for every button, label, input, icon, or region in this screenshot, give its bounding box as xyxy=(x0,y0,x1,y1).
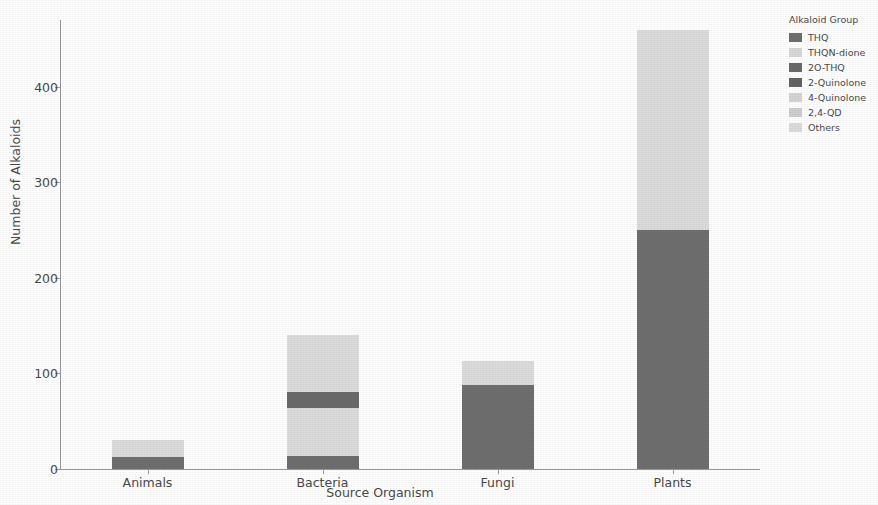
bar-segment[interactable] xyxy=(112,440,184,456)
legend-item-label: 2-Quinolone xyxy=(808,78,866,88)
bar-segment[interactable] xyxy=(112,457,184,469)
x-tick-mark xyxy=(673,469,674,474)
bar-stack[interactable] xyxy=(287,335,359,469)
legend-item-label: THQ xyxy=(808,33,828,43)
legend-swatch xyxy=(789,63,802,72)
bar-segment[interactable] xyxy=(462,361,534,385)
legend-item[interactable]: 2-Quinolone xyxy=(789,75,878,90)
legend-item[interactable]: THQN-dione xyxy=(789,45,878,60)
bar-segment[interactable] xyxy=(637,230,709,469)
legend-item[interactable]: 4-Quinolone xyxy=(789,90,878,105)
legend-item[interactable]: 2,4-QD xyxy=(789,105,878,120)
stacked-bar-chart: 0100200300400 AnimalsBacteriaFungiPlants… xyxy=(0,0,878,505)
bar-segment[interactable] xyxy=(637,30,709,231)
x-tick-mark xyxy=(148,469,149,474)
bar-stack[interactable] xyxy=(462,361,534,469)
legend: Alkaloid Group THQTHQN-dione2O-THQ2-Quin… xyxy=(789,14,878,135)
legend-swatch xyxy=(789,78,802,87)
y-tick-label: 200 xyxy=(0,270,58,285)
legend-items: THQTHQN-dione2O-THQ2-Quinolone4-Quinolon… xyxy=(789,30,878,135)
bar-segment[interactable] xyxy=(287,335,359,391)
legend-item-label: THQN-dione xyxy=(808,48,865,58)
bar-segment[interactable] xyxy=(462,385,534,469)
x-tick-mark xyxy=(498,469,499,474)
bar-stack[interactable] xyxy=(637,30,709,469)
legend-item-label: 2,4-QD xyxy=(808,108,842,118)
legend-item-label: Others xyxy=(808,123,840,133)
x-axis-line xyxy=(60,469,760,470)
legend-title: Alkaloid Group xyxy=(789,14,878,25)
legend-swatch xyxy=(789,123,802,132)
legend-swatch xyxy=(789,48,802,57)
bar-segment[interactable] xyxy=(287,408,359,456)
bar-segment[interactable] xyxy=(287,392,359,408)
x-axis-title: Source Organism xyxy=(0,485,760,500)
legend-item[interactable]: Others xyxy=(789,120,878,135)
x-tick-mark xyxy=(323,469,324,474)
legend-item-label: 4-Quinolone xyxy=(808,93,866,103)
bar-stack[interactable] xyxy=(112,440,184,469)
legend-swatch xyxy=(789,108,802,117)
y-axis-line xyxy=(60,20,61,469)
legend-swatch xyxy=(789,93,802,102)
legend-swatch xyxy=(789,33,802,42)
y-tick-label: 400 xyxy=(0,79,58,94)
y-axis-title: Number of Alkaloids xyxy=(8,119,23,245)
y-tick-label: 100 xyxy=(0,366,58,381)
legend-item[interactable]: THQ xyxy=(789,30,878,45)
y-tick-label: 0 xyxy=(0,462,58,477)
plot-area: 0100200300400 AnimalsBacteriaFungiPlants xyxy=(60,20,760,469)
bar-segment[interactable] xyxy=(287,456,359,469)
legend-item-label: 2O-THQ xyxy=(808,63,845,73)
legend-item[interactable]: 2O-THQ xyxy=(789,60,878,75)
